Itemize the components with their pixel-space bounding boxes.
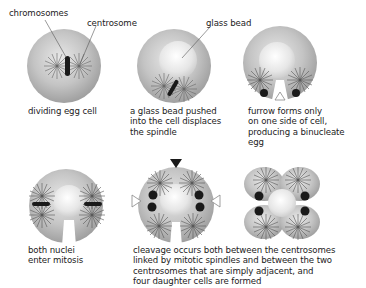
- glass-bead-cell-drawing: [137, 27, 211, 103]
- furrow-cell-drawing: [243, 26, 317, 100]
- four-daughter-cells-drawing: [244, 167, 320, 240]
- caption-furrow-one-side: furrow forms only on one side of cell, p…: [248, 106, 345, 147]
- caption-dividing-egg-cell: dividing egg cell: [28, 106, 97, 116]
- caption-both-nuclei-mitosis: both nuclei enter mitosis: [28, 245, 83, 266]
- caption-glass-bead-pushed: a glass bead pushed into the cell displa…: [130, 106, 221, 137]
- dividing-egg-cell-drawing: [27, 20, 101, 103]
- centrosome-label: centrosome: [87, 18, 137, 28]
- glass-bead-label: glass bead: [206, 18, 251, 28]
- cleavage-before-drawing: [132, 159, 220, 246]
- caption-cleavage-four-cells: cleavage occurs both between the centros…: [133, 245, 335, 286]
- cleavage-arrow-top-icon: [170, 159, 182, 168]
- both-nuclei-drawing: [29, 169, 105, 246]
- chromosomes-label: chromosomes: [9, 8, 68, 18]
